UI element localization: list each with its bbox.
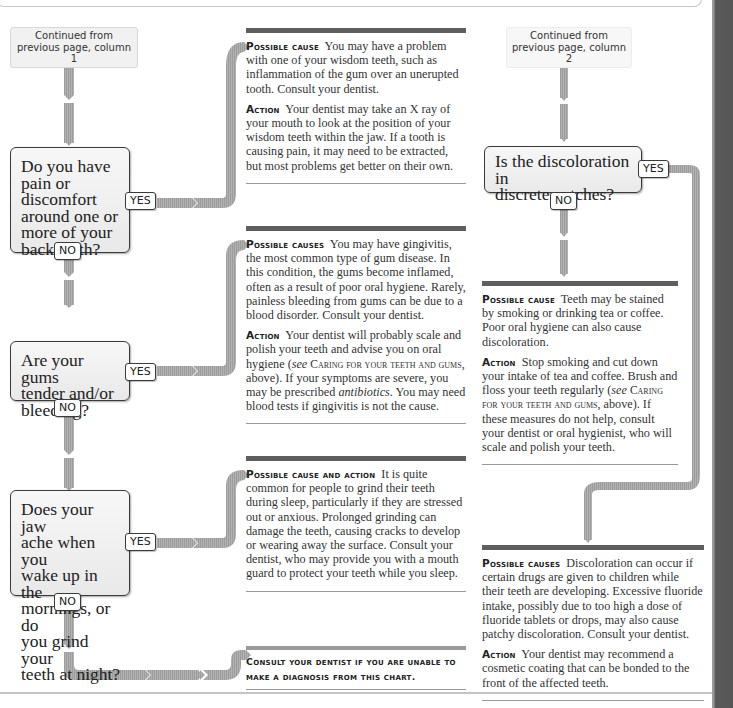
paragraph-label: Possible cause xyxy=(482,293,555,305)
paragraph-label: Action xyxy=(246,329,280,341)
question-line: ache when you xyxy=(21,534,121,567)
consult-line-1: Consult your dentist if you are unable t… xyxy=(246,654,466,669)
paragraph-label: Possible causes xyxy=(246,238,324,250)
panel-paragraph: Possible causes Discoloration can occur … xyxy=(482,556,704,641)
question-line: Is the discoloration in xyxy=(495,153,633,186)
note-bottom-rule xyxy=(246,689,466,690)
question-line: teeth at night? xyxy=(21,666,121,683)
question-line: you grind your xyxy=(21,633,121,666)
consult-line-2: make a diagnosis from this chart. xyxy=(246,669,466,684)
question-back-teeth-pain: Do you have pain or discomfort around on… xyxy=(10,147,130,253)
panel-top-bar xyxy=(482,281,678,286)
note-top-bar xyxy=(246,646,466,650)
yes-tag: YES xyxy=(125,533,156,551)
panel-top-bar xyxy=(246,456,466,461)
panel-paragraph: Possible cause You may have a problem wi… xyxy=(246,39,466,96)
paragraph-label: Possible causes xyxy=(482,557,560,569)
yes-tag: YES xyxy=(125,192,156,210)
panel-grinding: Possible cause and action It is quite co… xyxy=(246,456,466,592)
see-word: see xyxy=(611,383,627,397)
panel-bottom-rule xyxy=(246,423,466,424)
continued-line-2: previous page, column 1 xyxy=(15,42,133,65)
panel-bottom-rule xyxy=(246,183,466,184)
panel-bottom-rule xyxy=(482,464,678,465)
continued-from-column-1: Continued from previous page, column 1 xyxy=(10,27,138,68)
no-tag: NO xyxy=(54,242,81,260)
page-edge-bar xyxy=(712,0,733,708)
panel-paragraph: Possible cause and action It is quite co… xyxy=(246,467,466,581)
panel-paragraph: Action Stop smoking and cut down your in… xyxy=(482,355,678,454)
panel-paragraph: Action Your dentist may recommend a cosm… xyxy=(482,647,704,690)
yes-tag: YES xyxy=(125,363,156,381)
continued-line-1: Continued from xyxy=(15,30,133,42)
panel-top-bar xyxy=(246,28,466,33)
continued-from-column-2: Continued from previous page, column 2 xyxy=(506,27,632,68)
panel-gingivitis: Possible causes You may have gingivitis,… xyxy=(246,226,466,424)
question-jaw-ache-grinding: Does your jaw ache when you wake up in t… xyxy=(10,490,130,596)
no-tag: NO xyxy=(54,593,81,611)
panel-top-bar xyxy=(482,545,704,550)
question-line: Does your jaw xyxy=(21,501,121,534)
consult-dentist-note: Consult your dentist if you are unable t… xyxy=(246,646,466,690)
panel-paragraph: Possible causes You may have gingivitis,… xyxy=(246,237,466,322)
see-word: see xyxy=(292,357,308,371)
question-discoloration-patches: Is the discoloration in discrete patches… xyxy=(484,146,642,193)
paragraph-label: Action xyxy=(482,648,516,660)
no-tag: NO xyxy=(550,192,577,210)
cross-reference: Caring for your teeth and gums xyxy=(310,358,461,370)
panel-paragraph: Possible cause Teeth may be stained by s… xyxy=(482,292,678,349)
panel-paragraph: Action Your dentist will probably scale … xyxy=(246,328,466,413)
paragraph-text: It is quite common for people to grind t… xyxy=(246,467,462,580)
question-gums-bleeding: Are your gums tender and/or bleeding? xyxy=(10,341,130,401)
yes-tag: YES xyxy=(638,160,669,178)
paragraph-label: Possible cause xyxy=(246,40,319,52)
continued-line-1: Continued from xyxy=(511,30,627,42)
paragraph-label: Action xyxy=(482,356,516,368)
italic-term: antibiotics xyxy=(338,385,389,399)
panel-wisdom-teeth: Possible cause You may have a problem wi… xyxy=(246,28,466,184)
panel-patchy-discoloration: Possible causes Discoloration can occur … xyxy=(482,545,704,701)
panel-staining: Possible cause Teeth may be stained by s… xyxy=(482,281,678,465)
panel-paragraph: Action Your dentist may take an X ray of… xyxy=(246,102,466,173)
paragraph-label: Possible cause and action xyxy=(246,468,375,480)
paragraph-label: Action xyxy=(246,103,280,115)
panel-bottom-rule xyxy=(482,700,704,701)
continued-line-2: previous page, column 2 xyxy=(511,42,627,65)
question-line: Are your gums xyxy=(21,352,121,385)
no-tag: NO xyxy=(54,399,81,417)
panel-bottom-rule xyxy=(246,591,466,592)
panel-top-bar xyxy=(246,226,466,231)
